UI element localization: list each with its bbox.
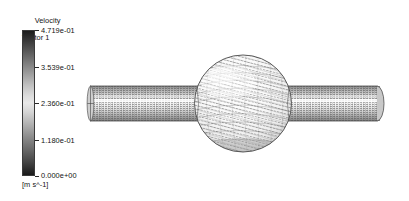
colorbar-tick (35, 176, 39, 177)
colorbar-container: 4.719e-01 3.539e-01 2.360e-01 1.180e-01 … (22, 30, 35, 176)
colorbar-tick-label: 2.360e-01 (41, 100, 75, 108)
legend-units: [m s^-1] (22, 180, 48, 189)
colorbar-tick (35, 103, 39, 104)
colorbar-tick-label: 0.000e+00 (41, 172, 77, 180)
spherical-bulb (194, 54, 293, 162)
colorbar-tick-label: 1.180e-01 (41, 137, 75, 145)
velocity-legend: Velocity Vector 1 4.719e-01 3.539e-01 2.… (22, 8, 112, 196)
colorbar-tick (35, 140, 39, 141)
legend-title-line1: Velocity (35, 16, 61, 25)
visualization-canvas: Velocity Vector 1 4.719e-01 3.539e-01 2.… (0, 0, 409, 201)
outlet-pipe (288, 86, 384, 121)
colorbar-gradient (22, 30, 35, 176)
colorbar-tick-label: 3.539e-01 (41, 64, 75, 72)
colorbar-tick-label: 4.719e-01 (41, 27, 75, 35)
colorbar-tick (35, 67, 39, 68)
colorbar-tick (35, 30, 39, 31)
